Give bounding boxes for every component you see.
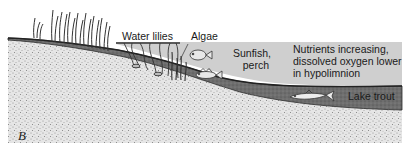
label-lake-trout: Lake trout	[348, 91, 395, 103]
panel-letter: B	[18, 128, 26, 144]
label-algae: Algae	[191, 31, 218, 43]
label-sunfish: Sunfish,	[233, 48, 269, 60]
label-nutrients-line3: in hypolimnion	[293, 68, 360, 80]
lake-cross-section-diagram: Water lilies Algae Sunfish, perch Nutrie…	[0, 0, 412, 159]
diagram-canvas	[0, 0, 412, 159]
label-nutrients-line1: Nutrients increasing,	[293, 44, 389, 56]
label-perch: perch	[233, 60, 269, 72]
label-nutrients-line2: dissolved oxygen lower	[293, 56, 402, 68]
label-water-lilies: Water lilies	[122, 31, 173, 43]
